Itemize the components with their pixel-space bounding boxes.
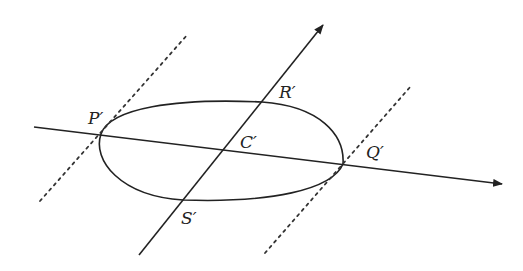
label-p: P′: [87, 108, 103, 128]
tangent-line-p: [40, 34, 188, 201]
label-q: Q′: [366, 142, 384, 162]
label-r: R′: [278, 82, 296, 102]
ellipse-conjugate-diameters-figure: P′ R′ C′ Q′ S′: [0, 0, 523, 271]
label-c: C′: [240, 132, 257, 152]
horizontal-axis-line: [34, 127, 502, 184]
label-s: S′: [181, 208, 197, 228]
ellipse-curve: [99, 101, 343, 200]
